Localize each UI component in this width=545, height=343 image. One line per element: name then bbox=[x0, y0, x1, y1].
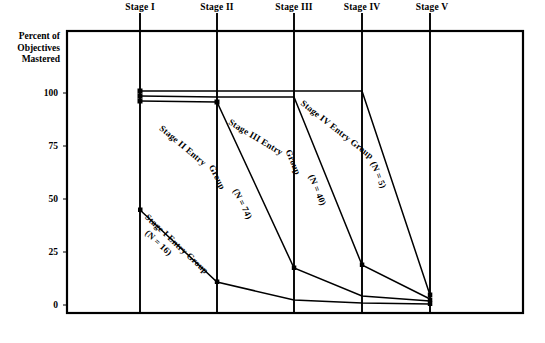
y-tick-label-100: 100 bbox=[0, 88, 58, 98]
data-point bbox=[138, 89, 143, 94]
data-point bbox=[215, 280, 220, 285]
series-line-stage2-entry bbox=[140, 101, 430, 301]
y-tick-label-0: 0 bbox=[0, 300, 58, 310]
data-point bbox=[428, 302, 433, 307]
data-point bbox=[428, 293, 433, 298]
data-point bbox=[138, 94, 143, 99]
data-point bbox=[360, 263, 365, 268]
chart-canvas bbox=[0, 0, 545, 343]
stage-label-5: Stage V bbox=[416, 2, 449, 12]
stage-label-1: Stage I bbox=[125, 2, 155, 12]
stage-label-2: Stage II bbox=[200, 2, 234, 12]
y-tick-label-75: 75 bbox=[0, 141, 58, 151]
y-axis-title-line2: Objectives bbox=[0, 43, 60, 55]
chart-figure: Stage I Stage II Stage III Stage IV Stag… bbox=[0, 0, 545, 343]
y-tick-label-50: 50 bbox=[0, 194, 58, 204]
data-point bbox=[428, 298, 433, 303]
data-point bbox=[138, 208, 143, 213]
series-line-stage4-entry bbox=[140, 91, 430, 295]
y-tick-label-25: 25 bbox=[0, 247, 58, 257]
y-axis-title-line3: Mastered bbox=[0, 54, 60, 66]
stage-label-3: Stage III bbox=[275, 2, 312, 12]
series-line-stage3-entry bbox=[140, 96, 430, 299]
stage-label-4: Stage IV bbox=[344, 2, 381, 12]
data-point bbox=[215, 100, 220, 105]
data-point bbox=[138, 99, 143, 104]
data-point bbox=[292, 266, 297, 271]
data-point-markers bbox=[138, 89, 433, 307]
y-axis-title-line1: Percent of bbox=[0, 31, 60, 43]
y-axis-title: Percent of Objectives Mastered bbox=[0, 31, 60, 66]
